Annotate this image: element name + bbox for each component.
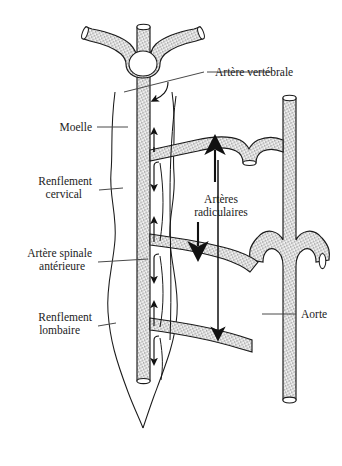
- label-vertebral-artery: Artère vertébrale: [215, 66, 293, 78]
- label-radicular-arteries-line2: radiculaires: [194, 206, 248, 218]
- label-spinal-cord: Moelle: [59, 121, 92, 133]
- figure-canvas: Artère vertébrale Moelle Renflement cerv…: [0, 0, 342, 466]
- anterior-spinal-artery: [137, 60, 150, 384]
- anatomical-figure: Artère vertébrale Moelle Renflement cerv…: [0, 0, 342, 466]
- label-anterior-spinal-artery-line2: antérieure: [39, 260, 85, 272]
- label-cervical-enlargement-line1: Renflement: [38, 175, 92, 187]
- label-cervical-enlargement-line2: cervical: [46, 188, 82, 200]
- label-radicular-arteries-line1: Artères: [204, 193, 238, 205]
- label-lumbar-enlargement-line1: Renflement: [38, 311, 92, 323]
- label-aorta: Aorte: [301, 308, 327, 320]
- label-anterior-spinal-artery-line1: Artère spinale: [27, 247, 92, 260]
- label-lumbar-enlargement-line2: lombaire: [39, 324, 80, 336]
